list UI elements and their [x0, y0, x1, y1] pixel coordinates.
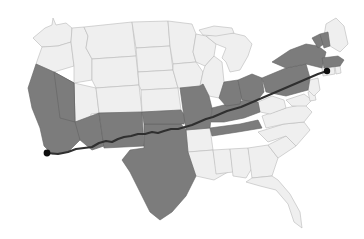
state-mississippi[interactable]	[213, 149, 233, 174]
state-massachusetts[interactable]	[322, 56, 344, 68]
state-north-dakota[interactable]	[132, 21, 170, 48]
west-endpoint-marker[interactable]	[44, 150, 51, 157]
east-endpoint-marker[interactable]	[324, 68, 330, 74]
state-new-mexico[interactable]	[99, 112, 144, 148]
state-colorado[interactable]	[96, 85, 142, 113]
state-washington[interactable]	[33, 18, 72, 47]
map-figure: States along route Other states Route En…	[0, 0, 364, 239]
state-south-dakota[interactable]	[136, 46, 173, 72]
state-nebraska[interactable]	[138, 70, 178, 90]
state-minnesota[interactable]	[168, 21, 196, 64]
state-wyoming[interactable]	[92, 56, 139, 88]
us-map[interactable]	[0, 0, 364, 239]
state-iowa[interactable]	[173, 62, 203, 88]
state-arkansas[interactable]	[186, 128, 213, 152]
state-tennessee[interactable]	[210, 120, 262, 136]
state-oklahoma[interactable]	[142, 110, 186, 124]
state-maryland[interactable]	[286, 94, 312, 106]
state-florida[interactable]	[246, 176, 302, 228]
state-kansas[interactable]	[141, 88, 181, 112]
state-montana[interactable]	[84, 22, 136, 59]
